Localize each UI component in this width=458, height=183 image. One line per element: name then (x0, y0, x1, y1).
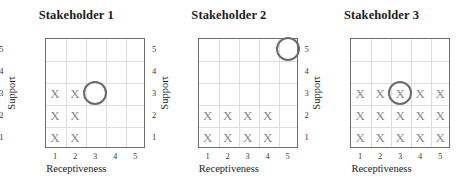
chart-panel-1: Stakeholder 1XXXXXX1234512345Receptivene… (0, 0, 153, 183)
data-marker: X (395, 109, 404, 122)
data-marker: X (375, 87, 384, 100)
data-marker: X (50, 131, 59, 144)
x-axis-tick-label: 4 (265, 151, 269, 161)
highlight-circle-annotation (83, 81, 107, 105)
y-axis-tick-label: 2 (295, 110, 309, 120)
data-marker: X (70, 87, 79, 100)
x-axis-tick-label: 3 (245, 151, 249, 161)
data-marker: X (223, 109, 232, 122)
x-axis-tick-label: 5 (285, 151, 289, 161)
x-axis-tick-label: 2 (225, 151, 229, 161)
gridline-vertical (219, 39, 220, 147)
gridline-horizontal (351, 127, 449, 128)
x-axis-tick-label: 2 (378, 151, 382, 161)
data-marker: X (263, 131, 272, 144)
data-marker: X (70, 131, 79, 144)
x-axis-label: Receptiveness (0, 163, 153, 174)
data-marker: X (395, 131, 404, 144)
data-marker: X (243, 109, 252, 122)
x-axis-tick-label: 1 (53, 151, 57, 161)
gridline-horizontal (46, 127, 144, 128)
chart-panel-3: Stakeholder 3XXXXXXXXXXXXXXX1234512345Re… (305, 0, 458, 183)
y-axis-tick-label: 1 (142, 132, 156, 142)
panel-title: Stakeholder 3 (305, 8, 458, 23)
x-axis-label: Receptiveness (153, 163, 306, 174)
gridline-vertical (259, 39, 260, 147)
gridline-horizontal (199, 127, 297, 128)
panel-title: Stakeholder 2 (153, 8, 306, 23)
data-marker: X (415, 109, 424, 122)
chart-panel-2: Stakeholder 2XXXXXXXX1234512345Receptive… (153, 0, 306, 183)
data-marker: X (203, 131, 212, 144)
y-axis-tick-label: 2 (142, 110, 156, 120)
data-marker: X (435, 131, 444, 144)
gridline-horizontal (351, 105, 449, 106)
data-marker: X (435, 87, 444, 100)
x-axis-tick-label: 2 (73, 151, 77, 161)
x-axis-tick-label: 5 (133, 151, 137, 161)
y-axis-tick-label: 4 (0, 66, 4, 76)
gridline-vertical (126, 39, 127, 147)
data-marker: X (415, 87, 424, 100)
gridline-horizontal (199, 105, 297, 106)
data-marker: X (415, 131, 424, 144)
data-marker: X (50, 87, 59, 100)
gridline-vertical (239, 39, 240, 147)
gridline-horizontal (199, 83, 297, 84)
data-marker: X (203, 109, 212, 122)
data-marker: X (355, 109, 364, 122)
data-marker: X (375, 131, 384, 144)
x-axis-tick-label: 3 (398, 151, 402, 161)
data-marker: X (50, 109, 59, 122)
y-axis-label: Support (311, 76, 322, 109)
x-axis-tick-label: 3 (93, 151, 97, 161)
y-axis-tick-label: 5 (142, 44, 156, 54)
gridline-horizontal (199, 61, 297, 62)
gridline-horizontal (46, 61, 144, 62)
gridline-horizontal (46, 105, 144, 106)
y-axis-tick-label: 4 (295, 66, 309, 76)
x-axis-tick-label: 1 (358, 151, 362, 161)
x-axis-tick-label: 4 (418, 151, 422, 161)
y-axis-tick-label: 5 (0, 44, 4, 54)
panel-title: Stakeholder 1 (0, 8, 153, 23)
y-axis-tick-label: 2 (0, 110, 4, 120)
y-axis-tick-label: 3 (295, 88, 309, 98)
data-marker: X (355, 87, 364, 100)
y-axis-label: Support (6, 76, 17, 109)
y-axis-tick-label: 3 (0, 88, 4, 98)
y-axis-tick-label: 1 (295, 132, 309, 142)
y-axis-tick-label: 4 (142, 66, 156, 76)
x-axis-label: Receptiveness (305, 163, 458, 174)
data-marker: X (375, 109, 384, 122)
y-axis-tick-label: 3 (142, 88, 156, 98)
x-axis-tick-label: 5 (438, 151, 442, 161)
gridline-vertical (371, 39, 372, 147)
x-axis-tick-label: 4 (113, 151, 117, 161)
gridline-vertical (66, 39, 67, 147)
data-marker: X (355, 131, 364, 144)
highlight-circle-annotation (388, 81, 412, 105)
data-marker: X (223, 131, 232, 144)
y-axis-tick-label: 1 (0, 132, 4, 142)
data-marker: X (435, 109, 444, 122)
y-axis-tick-label: 5 (295, 44, 309, 54)
x-axis-tick-label: 1 (205, 151, 209, 161)
data-marker: X (70, 109, 79, 122)
data-marker: X (243, 131, 252, 144)
stakeholder-grid-figure: Stakeholder 1XXXXXX1234512345Receptivene… (0, 0, 458, 183)
data-marker: X (263, 109, 272, 122)
gridline-vertical (431, 39, 432, 147)
gridline-horizontal (351, 61, 449, 62)
y-axis-label: Support (158, 76, 169, 109)
